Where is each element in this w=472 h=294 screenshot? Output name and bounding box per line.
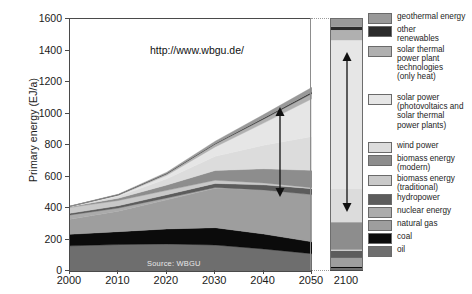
legend-item-oil[interactable]: oil bbox=[368, 245, 472, 257]
column-2100-band-natural-gas bbox=[331, 258, 362, 267]
legend-label-solar-power-line1: solar power bbox=[397, 93, 463, 102]
source-note: Source: WBGU bbox=[147, 259, 201, 268]
legend-label-biomass-traditional-line1: biomass energy bbox=[397, 174, 455, 183]
legend-swatch-wind-power bbox=[368, 142, 392, 153]
y-tick-label-800: 800 bbox=[0, 138, 69, 150]
column-2100-band-biomass-energy-modern- bbox=[331, 222, 362, 250]
column-2100-band-solar-thermal-power-plant-technologies-only-heat- bbox=[331, 30, 362, 40]
x-tick-mark-2040 bbox=[263, 270, 264, 274]
y-tick-label-400: 400 bbox=[0, 201, 69, 213]
legend-label-solar-thermal-line1: solar thermal bbox=[397, 45, 444, 54]
legend-label-other-renewables-line1: other bbox=[397, 25, 439, 34]
legend-swatch-oil bbox=[368, 246, 392, 257]
legend-label-biomass-modern-line1: biomass energy bbox=[397, 154, 455, 163]
legend-item-biomass-traditional[interactable]: biomass energy (traditional) bbox=[368, 174, 472, 193]
x-tick-mark-2000 bbox=[69, 270, 70, 274]
plot-right-edge bbox=[310, 18, 311, 270]
legend-label-natural-gas: natural gas bbox=[397, 219, 438, 228]
legend-label-solar-power-line2: (photovoltaics and bbox=[397, 102, 463, 111]
y-tick-label-600: 600 bbox=[0, 170, 69, 182]
legend-swatch-natural-gas bbox=[368, 220, 392, 231]
legend-label-oil: oil bbox=[397, 245, 405, 254]
legend-label-biomass-modern-line2: (modern) bbox=[397, 163, 455, 172]
column-2100-band-other-renewables bbox=[331, 27, 362, 30]
legend-label-solar-power-line3: solar thermal bbox=[397, 111, 463, 120]
legend-item-nuclear-energy[interactable]: nuclear energy bbox=[368, 206, 472, 218]
legend-swatch-biomass-traditional bbox=[368, 175, 392, 186]
legend-label-wind-power: wind power bbox=[397, 141, 438, 150]
x-tick-mark-2050 bbox=[311, 270, 312, 274]
x-tick-mark-2010 bbox=[117, 270, 118, 274]
legend-swatch-nuclear-energy bbox=[368, 207, 392, 218]
x-tick-mark-2020 bbox=[166, 270, 167, 274]
arrow-2100-solar-icon bbox=[338, 52, 356, 212]
legend-label-solar-thermal-line4: (only heat) bbox=[397, 72, 444, 81]
legend-label-solar-power-line4: power plants) bbox=[397, 121, 463, 130]
y-tick-label-200: 200 bbox=[0, 233, 69, 245]
y-axis-title: Primary energy (EJ/a) bbox=[27, 50, 39, 210]
legend-swatch-solar-thermal bbox=[368, 46, 392, 57]
legend-item-biomass-modern[interactable]: biomass energy (modern) bbox=[368, 154, 472, 173]
legend-swatch-biomass-modern bbox=[368, 155, 392, 166]
legend-swatch-coal bbox=[368, 233, 392, 244]
legend-spacer bbox=[368, 83, 472, 93]
column-2100-baseline bbox=[330, 270, 363, 271]
legend-label-other-renewables-line2: renewables bbox=[397, 34, 439, 43]
chart-figure: Primary energy (EJ/a) 160014001200100080… bbox=[0, 0, 472, 294]
column-2100-band-biomass-energy-traditional- bbox=[331, 250, 362, 251]
legend-label-biomass-traditional-line2: (traditional) bbox=[397, 183, 455, 192]
x-tick-label-2100: 2100 bbox=[316, 274, 376, 286]
legend-label-hydropower: hydropower bbox=[397, 193, 440, 202]
url-annotation: http://www.wbgu.de/ bbox=[150, 44, 244, 56]
legend-item-solar-thermal[interactable]: solar thermal power plant technologies (… bbox=[368, 45, 472, 82]
plot-area: http://www.wbgu.de/ Source: WBGU bbox=[69, 18, 312, 272]
legend-swatch-other-renewables bbox=[368, 26, 392, 37]
y-tick-label-1600: 1600 bbox=[0, 12, 69, 24]
legend-item-geothermal-energy[interactable]: geothermal energy bbox=[368, 12, 472, 24]
legend-label-nuclear-energy: nuclear energy bbox=[397, 206, 451, 215]
legend-item-other-renewables[interactable]: other renewables bbox=[368, 25, 472, 44]
y-tick-label-1200: 1200 bbox=[0, 75, 69, 87]
legend-spacer-2 bbox=[368, 131, 472, 141]
legend-label-solar-thermal-line3: technologies bbox=[397, 63, 444, 72]
y-tick-label-1400: 1400 bbox=[0, 44, 69, 56]
legend-item-hydropower[interactable]: hydropower bbox=[368, 193, 472, 205]
legend-swatch-hydropower bbox=[368, 194, 392, 205]
column-2100-band-hydropower bbox=[331, 251, 362, 258]
legend-item-coal[interactable]: coal bbox=[368, 232, 472, 244]
legend-label-solar-thermal-line2: power plant bbox=[397, 54, 444, 63]
x-tick-mark-2030 bbox=[214, 270, 215, 274]
dotted-connector-bottom bbox=[311, 270, 331, 271]
legend-label-coal: coal bbox=[397, 232, 412, 241]
legend-item-wind-power[interactable]: wind power bbox=[368, 141, 472, 153]
column-2100-band-geothermal-energy bbox=[331, 19, 362, 27]
legend-label-geothermal-energy: geothermal energy bbox=[397, 12, 465, 21]
arrow-2050-solar-icon bbox=[270, 107, 290, 197]
legend-item-solar-power[interactable]: solar power (photovoltaics and solar the… bbox=[368, 93, 472, 130]
column-2100 bbox=[330, 18, 363, 271]
legend-swatch-geothermal-energy bbox=[368, 13, 392, 24]
legend-swatch-solar-power bbox=[368, 94, 392, 105]
legend-item-natural-gas[interactable]: natural gas bbox=[368, 219, 472, 231]
dotted-connector-top bbox=[311, 18, 331, 19]
legend: geothermal energy other renewables solar… bbox=[368, 12, 472, 258]
column-2100-band-coal bbox=[331, 267, 362, 269]
y-tick-label-1000: 1000 bbox=[0, 107, 69, 119]
